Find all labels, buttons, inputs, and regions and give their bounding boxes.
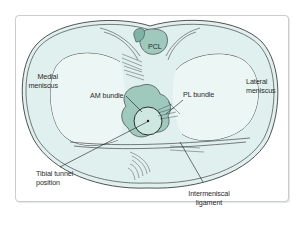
- tibial-plateau-diagram: [0, 0, 301, 225]
- label-lateral-meniscus: Lateral meniscus: [246, 78, 276, 95]
- label-pcl: PCL: [148, 43, 162, 52]
- label-lateral-line2: meniscus: [246, 87, 276, 96]
- label-medial-line2: meniscus: [22, 82, 58, 91]
- label-am-bundle: AM bundle: [90, 92, 123, 101]
- label-tibial-tunnel: Tibial tunnel position: [36, 170, 73, 187]
- tibial-tunnel-center-dot: [147, 120, 149, 122]
- label-intermeniscal-line2: ligament: [180, 199, 238, 208]
- label-intermeniscal-ligament: Intermeniscal ligament: [180, 190, 238, 207]
- label-medial-meniscus: Medial meniscus: [22, 73, 58, 90]
- label-tibial-line2: position: [36, 179, 73, 188]
- label-pl-bundle: PL bundle: [183, 91, 214, 100]
